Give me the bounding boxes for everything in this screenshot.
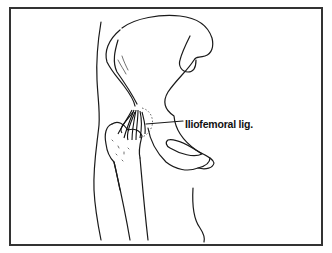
iliofemoral-ligament-label: Iliofemoral lig. <box>185 118 253 130</box>
inner-thigh-outline <box>193 188 205 242</box>
iliofemoral-ligament <box>118 110 145 140</box>
pubic-ramus <box>148 128 210 170</box>
femur-shaft-lateral <box>114 162 130 240</box>
iliac-spine-notch <box>179 36 196 72</box>
label-leader-line <box>146 121 183 124</box>
iliac-surface-detail <box>118 56 128 74</box>
femur-shaft-medial <box>140 158 148 240</box>
iliac-crest-inner <box>114 40 137 104</box>
trochanter-texture <box>112 140 129 161</box>
obturator-foramen <box>166 140 202 156</box>
body-outline <box>94 22 101 240</box>
hip-anatomy-drawing <box>0 0 332 253</box>
iliac-crest-outer <box>106 30 135 106</box>
ilium-outline <box>122 16 214 169</box>
